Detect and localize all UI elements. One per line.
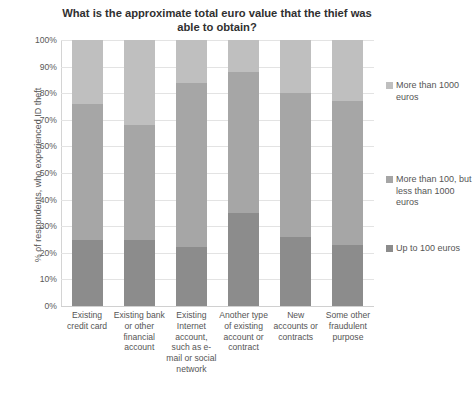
bar-segment[interactable]: [280, 40, 311, 93]
bar-segment[interactable]: [176, 40, 207, 83]
x-axis-category-labels: Existing credit cardExisting bank or oth…: [61, 310, 374, 390]
bar-segment[interactable]: [332, 245, 363, 306]
bar-segment[interactable]: [332, 40, 363, 101]
bar-segment[interactable]: [228, 72, 259, 213]
x-axis-category-label: Existing credit card: [61, 310, 113, 332]
legend-swatch-icon: [386, 176, 393, 183]
gridline: [61, 279, 374, 280]
y-axis-tick-label: 70%: [17, 115, 57, 125]
y-axis-tick-label: 10%: [17, 274, 57, 284]
bar-column[interactable]: [332, 40, 363, 306]
y-axis-tick-label: 20%: [17, 248, 57, 258]
bar-column[interactable]: [72, 40, 103, 306]
y-axis-tick-label: 80%: [17, 88, 57, 98]
gridline: [61, 93, 374, 94]
legend-item[interactable]: More than 1000 euros: [386, 80, 474, 103]
bar-segment[interactable]: [332, 101, 363, 245]
x-axis-category-label: Some other fraudulent purpose: [322, 310, 374, 342]
bar-segment[interactable]: [176, 247, 207, 306]
y-axis-tick-label: 40%: [17, 195, 57, 205]
y-axis-tick-label: 0%: [17, 301, 57, 311]
bar-segment[interactable]: [72, 240, 103, 307]
bar-segment[interactable]: [228, 213, 259, 306]
bar-segment[interactable]: [176, 83, 207, 248]
y-axis-tick-label: 90%: [17, 62, 57, 72]
legend-swatch-icon: [386, 82, 393, 89]
gridline: [61, 146, 374, 147]
bar-segment[interactable]: [124, 40, 155, 125]
legend-label: Up to 100 euros: [396, 243, 460, 255]
bottom-caption: [28, 389, 288, 398]
bar-segment[interactable]: [228, 40, 259, 72]
legend-label: More than 1000 euros: [396, 80, 474, 103]
bar-column[interactable]: [280, 40, 311, 306]
bar-segment[interactable]: [280, 237, 311, 306]
legend-item[interactable]: More than 100, but less than 1000 euros: [386, 174, 474, 209]
legend-item[interactable]: Up to 100 euros: [386, 243, 460, 255]
x-axis-category-label: New accounts or contracts: [270, 310, 322, 342]
bar-segment[interactable]: [72, 40, 103, 104]
gridline: [61, 306, 374, 307]
gridline: [61, 173, 374, 174]
chart-title: What is the approximate total euro value…: [52, 6, 382, 34]
bar-segment[interactable]: [124, 240, 155, 307]
y-axis-tick-label: 60%: [17, 141, 57, 151]
y-axis-tick-label: 50%: [17, 168, 57, 178]
bar-column[interactable]: [124, 40, 155, 306]
bar-segment[interactable]: [72, 104, 103, 240]
x-axis-category-label: Existing bank or other financial account: [113, 310, 165, 353]
legend-swatch-icon: [386, 245, 393, 252]
gridline: [61, 226, 374, 227]
gridline: [61, 200, 374, 201]
bar-column[interactable]: [228, 40, 259, 306]
chart-container: What is the approximate total euro value…: [0, 0, 476, 398]
x-axis-category-label: Existing Internet account, such as e-mai…: [165, 310, 217, 375]
legend-label: More than 100, but less than 1000 euros: [396, 174, 474, 209]
y-axis-tick-label: 100%: [17, 35, 57, 45]
x-axis-category-label: Another type of existing account or cont…: [218, 310, 270, 353]
gridline: [61, 67, 374, 68]
plot-area: [61, 40, 374, 306]
gridline: [61, 120, 374, 121]
y-axis-tick-labels: 100%90%80%70%60%50%40%30%20%10%0%: [12, 40, 57, 306]
bar-segment[interactable]: [280, 93, 311, 237]
bar-segment[interactable]: [124, 125, 155, 239]
gridline: [61, 40, 374, 41]
y-axis-tick-label: 30%: [17, 221, 57, 231]
gridline: [61, 253, 374, 254]
bar-column[interactable]: [176, 40, 207, 306]
